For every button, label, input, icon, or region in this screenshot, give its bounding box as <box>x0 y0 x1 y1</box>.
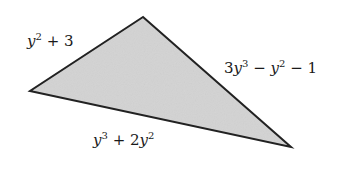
exponent: 2 <box>148 130 154 141</box>
operator: − <box>248 59 270 77</box>
term: − 1 <box>285 59 317 77</box>
left-side-label: y2 + 3 <box>27 34 74 49</box>
triangle-shape <box>0 0 351 173</box>
variable: y <box>271 59 279 77</box>
right-side-label: 3y3 − y2 − 1 <box>224 61 317 76</box>
term: + 3 <box>42 32 74 50</box>
variable: y <box>234 59 242 77</box>
bottom-side-label: y3 + 2y2 <box>93 133 154 148</box>
term: + 2 <box>108 131 140 149</box>
variable: y <box>140 131 148 149</box>
coefficient: 3 <box>224 59 234 77</box>
triangle-diagram: y2 + 3 3y3 − y2 − 1 y3 + 2y2 <box>0 0 351 173</box>
